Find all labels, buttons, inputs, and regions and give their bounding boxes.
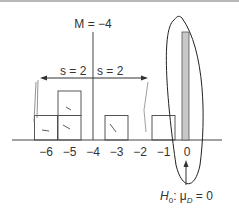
sample-box <box>105 116 128 141</box>
null-hypothesis-label: H0: μD = 0 <box>160 189 213 205</box>
handdrawn-mark-right <box>144 82 148 132</box>
sd-right-label: s = 2 <box>97 64 124 78</box>
tick-label: −3 <box>110 145 124 159</box>
sample-box <box>58 91 81 116</box>
distribution-diagram: M = −4 s = 2 s = 2 −6−5−4−3−2−10 H0: μD … <box>0 0 239 209</box>
null-hypothesis-bar <box>182 32 189 140</box>
tick-label: −5 <box>63 145 77 159</box>
null-arrow-head <box>184 160 189 167</box>
tick-label: −1 <box>157 145 171 159</box>
tick-label: −4 <box>86 145 100 159</box>
tick-label: −2 <box>133 145 147 159</box>
sample-box <box>35 116 58 141</box>
sd-arrow-right-head <box>141 76 148 81</box>
sample-boxes <box>35 91 176 140</box>
sample-box <box>58 116 81 141</box>
tick-label: −6 <box>39 145 53 159</box>
axis-tick-labels: −6−5−4−3−2−10 <box>39 145 191 159</box>
mean-label: M = −4 <box>74 17 112 31</box>
tick-label: 0 <box>184 145 191 159</box>
sd-arrow-left-head <box>40 76 47 81</box>
sd-left-label: s = 2 <box>60 64 87 78</box>
